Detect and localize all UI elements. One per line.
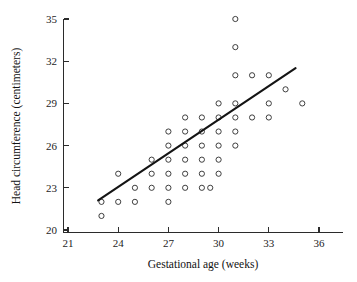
data-point	[183, 129, 188, 134]
data-point	[116, 199, 121, 204]
data-point	[249, 115, 254, 120]
data-point	[132, 199, 137, 204]
data-point	[183, 185, 188, 190]
data-point	[249, 73, 254, 78]
data-point	[183, 157, 188, 162]
regression-line	[98, 68, 295, 200]
data-point	[233, 16, 238, 21]
y-tick-label: 29	[46, 97, 58, 109]
data-point	[199, 157, 204, 162]
data-point	[149, 157, 154, 162]
y-tick-label: 32	[46, 55, 57, 67]
data-point	[183, 115, 188, 120]
data-point	[266, 101, 271, 106]
x-axis-ticks: 212427303336	[63, 227, 326, 250]
data-point	[199, 185, 204, 190]
x-tick-label: 21	[63, 237, 74, 249]
data-point	[283, 87, 288, 92]
data-point	[233, 129, 238, 134]
y-tick-label: 26	[46, 140, 58, 152]
y-tick-label: 23	[46, 182, 58, 194]
y-axis-ticks: 202326293235	[46, 13, 69, 236]
scatter-plot-figure: 202326293235 212427303336 Gestational ag…	[0, 0, 357, 282]
data-point	[199, 143, 204, 148]
chart-canvas: 202326293235 212427303336 Gestational ag…	[0, 0, 357, 282]
y-tick-label: 35	[46, 13, 58, 25]
data-point	[116, 171, 121, 176]
data-point	[166, 143, 171, 148]
data-point	[233, 45, 238, 50]
x-tick-label: 30	[213, 237, 225, 249]
data-point	[166, 157, 171, 162]
data-point	[266, 73, 271, 78]
data-point	[199, 171, 204, 176]
y-tick-label: 20	[46, 224, 58, 236]
x-tick-label: 27	[163, 237, 175, 249]
data-point-group	[99, 16, 305, 218]
data-point	[166, 199, 171, 204]
data-point	[149, 171, 154, 176]
data-point	[166, 129, 171, 134]
data-point	[300, 101, 305, 106]
x-tick-label: 24	[113, 237, 125, 249]
data-point	[233, 143, 238, 148]
data-point	[149, 185, 154, 190]
data-point	[216, 129, 221, 134]
x-axis-title: Gestational age (weeks)	[148, 258, 259, 271]
data-point	[166, 185, 171, 190]
data-point	[233, 115, 238, 120]
x-tick-label: 36	[314, 237, 326, 249]
data-point	[199, 115, 204, 120]
data-point	[166, 171, 171, 176]
data-point	[132, 185, 137, 190]
data-point	[216, 157, 221, 162]
data-point	[99, 213, 104, 218]
data-point	[266, 115, 271, 120]
data-point	[183, 171, 188, 176]
data-point	[216, 171, 221, 176]
y-axis-title: Head circumference (centimeters)	[10, 48, 23, 205]
x-tick-label: 33	[263, 237, 275, 249]
data-point	[216, 101, 221, 106]
data-point	[208, 185, 213, 190]
data-point	[216, 143, 221, 148]
data-point	[233, 101, 238, 106]
data-point	[233, 73, 238, 78]
